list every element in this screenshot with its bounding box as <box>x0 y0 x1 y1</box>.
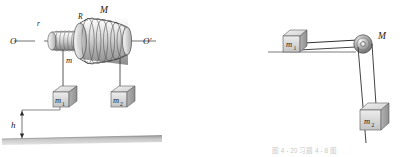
label-block-m2-right-sub: 2 <box>372 122 375 128</box>
physics-figure-canvas: O O' r R M m m 1 m 2 h <box>0 0 400 157</box>
label-block-m1-right-base: m <box>286 39 292 49</box>
horizontal-cord <box>299 40 358 50</box>
label-block-m2-right-base: m <box>364 116 370 126</box>
pulley-wheel-M <box>354 35 372 53</box>
label-block-m1-right-sub: 1 <box>294 45 297 51</box>
right-diagram-svg: m 1 M m 2 图 4 - 20 习题 4 - 8 图 <box>0 0 400 157</box>
figure-caption: 图 4 - 20 习题 4 - 8 图 <box>272 147 337 155</box>
label-pulley-M: M <box>377 31 387 41</box>
vertical-cord-right <box>372 44 376 105</box>
